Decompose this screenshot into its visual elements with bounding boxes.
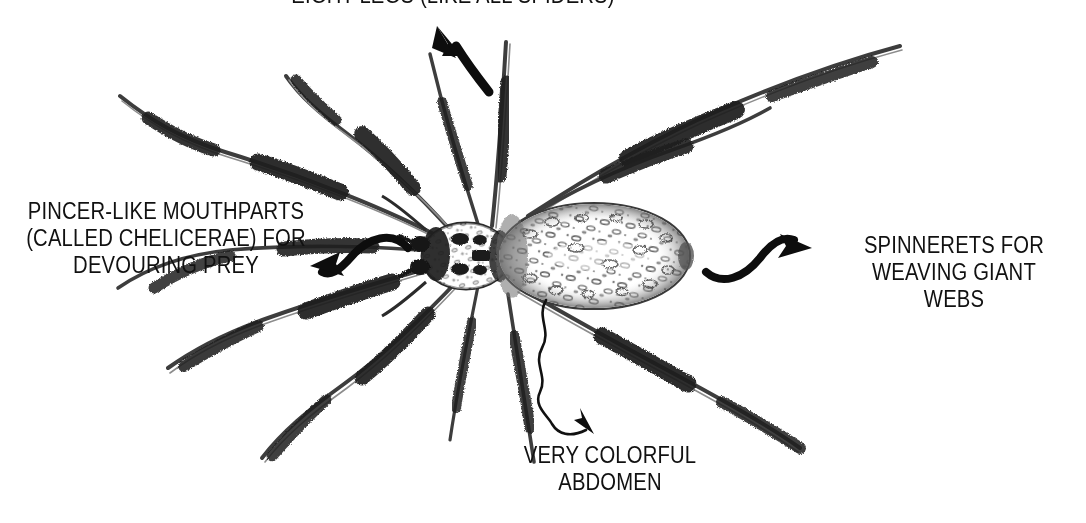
annotation-abdomen: VERY COLORFUL ABDOMEN <box>513 442 707 496</box>
arrow-wavy-down-icon <box>538 300 594 434</box>
annotation-chelicerae: PINCER-LIKE MOUTHPARTS (CALLED CHELICERA… <box>25 198 307 279</box>
spider-anatomy-figure: EIGHT LEGS (LIKE ALL SPIDERS) PINCER-LIK… <box>0 0 1086 523</box>
annotation-spinnerets: SPINNERETS FOR WEAVING GIANT WEBS <box>843 232 1065 313</box>
arrow-left-icon <box>310 238 408 276</box>
arrow-up-left-icon <box>432 26 489 92</box>
annotation-eight-legs: EIGHT LEGS (LIKE ALL SPIDERS) <box>268 0 638 9</box>
arrow-right-icon <box>706 234 812 279</box>
